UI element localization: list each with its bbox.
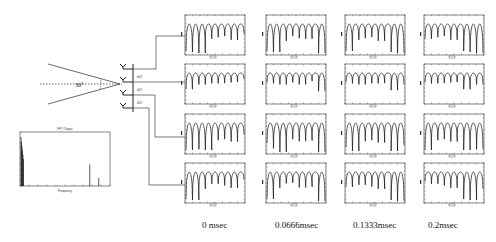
antenna-icon: [120, 103, 133, 108]
waveform-panel: [341, 114, 405, 157]
waveform-panel: [341, 163, 405, 206]
waveform-panel: [262, 64, 326, 107]
signal-connectors: [133, 36, 185, 185]
time-label-2: 0.1333msec: [353, 220, 396, 230]
waveform-panel: [341, 64, 405, 107]
angle-label: 30°: [75, 82, 84, 88]
waveform-panel: [420, 15, 484, 58]
fft-spectrum-inset: [20, 132, 110, 186]
waveform-panel: [262, 114, 326, 157]
spectrum-xlabel: Frequency: [58, 189, 73, 193]
antenna-icon: [120, 90, 133, 95]
time-label-1: 0.0666msec: [275, 220, 318, 230]
waveform-panel: [262, 15, 326, 58]
spectrum-title: FFT Output: [57, 127, 72, 131]
waveform-panel: [181, 163, 245, 206]
waveform-panel: [181, 114, 245, 157]
waveform-panel: [262, 163, 326, 206]
antenna-icon: [120, 77, 133, 82]
spacing-label: d/2: [137, 87, 142, 92]
spacing-label: d/2: [137, 74, 142, 79]
time-label-0: 0 msec: [202, 220, 227, 230]
waveform-panel: [420, 64, 484, 107]
waveform-panel: [181, 64, 245, 107]
waveform-panel: [181, 15, 245, 58]
figure-canvas: 30° d/2d/2d/2 FFT Output Frequency: [0, 0, 496, 242]
time-label-3: 0.2msec: [428, 220, 458, 230]
waveform-panel: [420, 163, 484, 206]
waveform-panel: [341, 15, 405, 58]
spacing-label: d/2: [137, 100, 142, 105]
waveform-panel: [420, 114, 484, 157]
antenna-icon: [120, 64, 133, 69]
